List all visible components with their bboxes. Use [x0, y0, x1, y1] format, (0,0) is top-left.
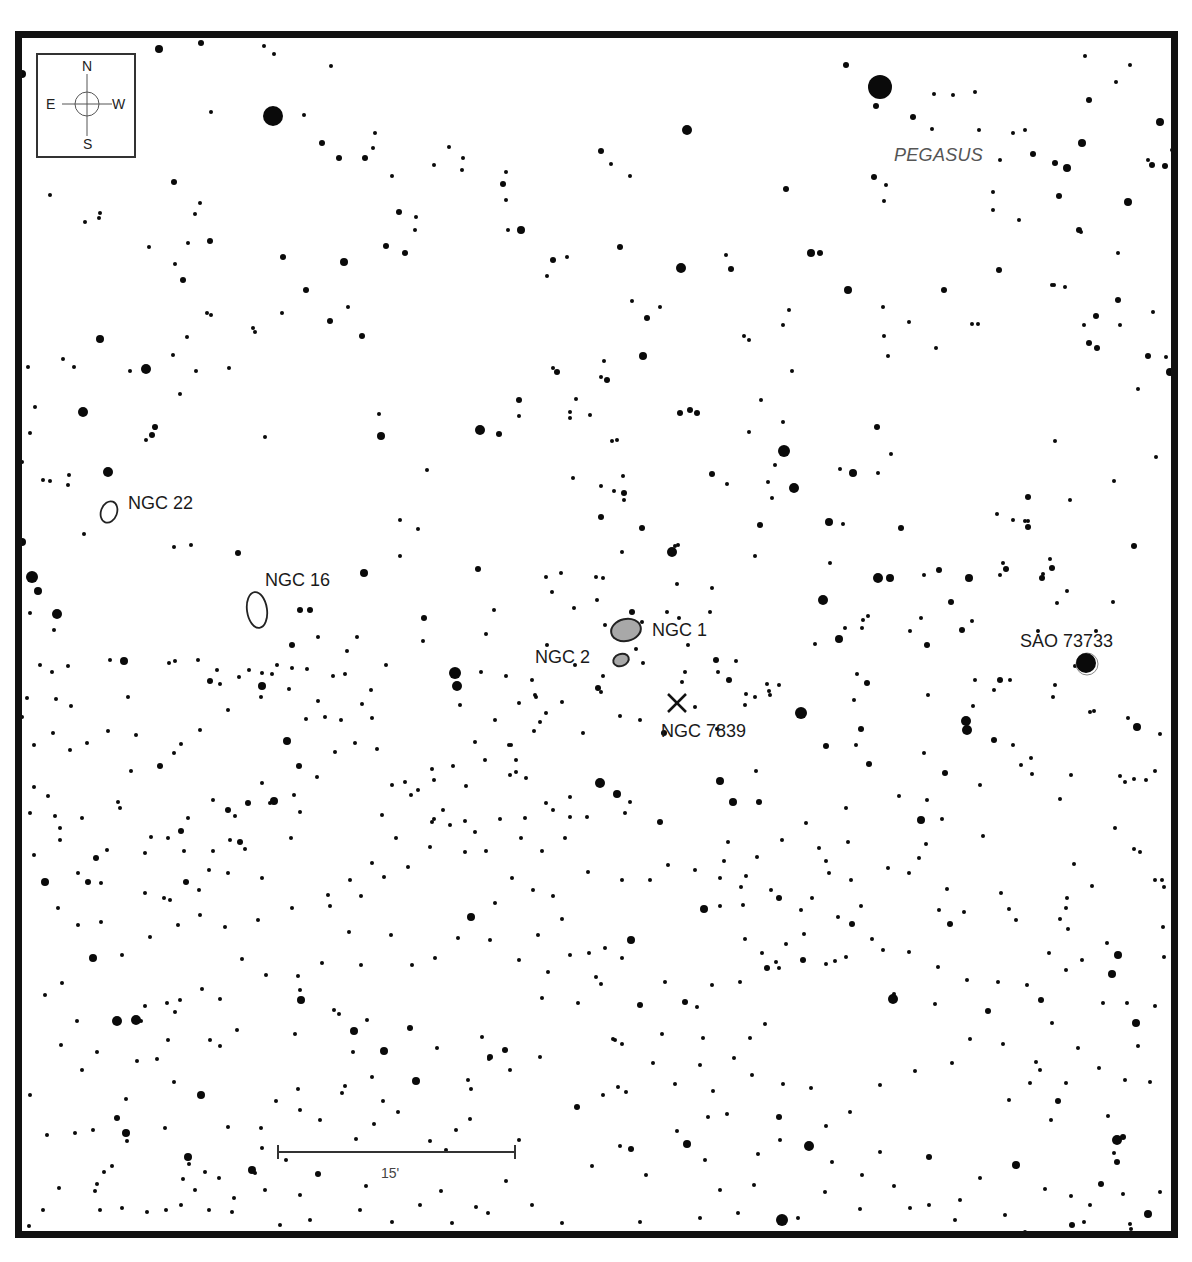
star — [272, 52, 276, 56]
star — [1144, 778, 1148, 782]
star — [298, 810, 302, 814]
star — [155, 1057, 159, 1061]
star — [1072, 862, 1076, 866]
star — [823, 743, 829, 749]
star — [102, 1170, 106, 1174]
star — [1041, 572, 1045, 576]
star — [742, 334, 746, 338]
star — [1162, 885, 1166, 889]
star — [959, 627, 965, 633]
star — [588, 413, 592, 417]
star — [844, 806, 848, 810]
star — [622, 498, 626, 502]
star — [860, 1173, 864, 1177]
compass-south: S — [83, 137, 92, 151]
star — [304, 717, 308, 721]
star — [780, 838, 784, 842]
star — [698, 1063, 702, 1067]
star — [1049, 1118, 1053, 1122]
star — [796, 1216, 800, 1220]
star — [666, 863, 670, 867]
star — [859, 904, 863, 908]
star — [289, 836, 293, 840]
star — [1038, 997, 1044, 1003]
star — [743, 937, 747, 941]
star — [425, 468, 429, 472]
star — [554, 369, 560, 375]
star — [1069, 1194, 1073, 1198]
star — [937, 908, 941, 912]
star — [410, 963, 414, 967]
star — [155, 45, 163, 53]
star — [329, 64, 333, 68]
star — [430, 767, 434, 771]
star — [120, 657, 128, 665]
star — [550, 590, 554, 594]
star — [628, 174, 632, 178]
star — [641, 661, 645, 665]
star — [886, 574, 894, 582]
star — [991, 190, 995, 194]
star — [203, 1170, 207, 1174]
star — [663, 980, 667, 984]
star — [757, 522, 763, 528]
star — [168, 898, 172, 902]
star — [932, 92, 936, 96]
star — [1023, 128, 1027, 132]
star — [1153, 878, 1157, 882]
star — [89, 954, 97, 962]
star — [958, 1198, 962, 1202]
star — [143, 851, 147, 855]
star — [263, 106, 283, 126]
star — [760, 951, 764, 955]
star — [726, 677, 732, 683]
star — [337, 1012, 341, 1016]
star — [413, 228, 417, 232]
star — [358, 1208, 362, 1212]
star — [1058, 917, 1062, 921]
chart-frame — [19, 35, 1175, 1235]
star — [488, 938, 492, 942]
star — [846, 840, 850, 844]
star — [747, 430, 751, 434]
star — [545, 274, 549, 278]
star — [207, 1208, 211, 1212]
star — [461, 156, 465, 160]
star — [350, 1027, 358, 1035]
star — [502, 1047, 508, 1053]
star — [612, 489, 616, 493]
star — [163, 1126, 167, 1130]
star — [1108, 970, 1116, 978]
star — [56, 906, 60, 910]
star — [861, 618, 865, 622]
star — [83, 220, 87, 224]
star — [726, 840, 730, 844]
star — [884, 183, 888, 187]
star — [709, 471, 715, 477]
star — [581, 731, 585, 735]
star — [129, 769, 133, 773]
star — [1055, 601, 1059, 605]
star — [1153, 1004, 1157, 1008]
star — [971, 704, 975, 708]
star — [598, 514, 604, 520]
star — [683, 670, 687, 674]
star — [91, 1128, 95, 1132]
star — [114, 1115, 120, 1121]
star — [460, 168, 464, 172]
star — [73, 1131, 77, 1135]
star — [677, 410, 683, 416]
star — [800, 957, 806, 963]
star — [881, 305, 885, 309]
star — [508, 773, 512, 777]
star — [514, 770, 518, 774]
star — [752, 1183, 756, 1187]
stars-layer — [18, 40, 1174, 1234]
star — [134, 733, 138, 737]
star — [795, 707, 807, 719]
star — [41, 878, 49, 886]
label-ngc-1: NGC 1 — [652, 621, 707, 639]
star — [565, 255, 569, 259]
star — [85, 879, 91, 885]
star — [1114, 80, 1118, 84]
